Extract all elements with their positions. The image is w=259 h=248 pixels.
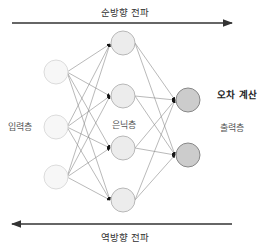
hidden-node bbox=[111, 136, 135, 160]
output-node bbox=[176, 88, 200, 112]
output-layer-label: 출력층 bbox=[220, 121, 244, 134]
hidden-layer-label: 은닉층 bbox=[112, 118, 136, 131]
input-node bbox=[44, 115, 68, 139]
hidden-node bbox=[111, 31, 135, 55]
error-calculation-label: 오차 계산 bbox=[217, 87, 256, 101]
output-node bbox=[176, 143, 200, 167]
input-node bbox=[44, 60, 68, 84]
backward-propagation-label: 역방향 전파 bbox=[101, 230, 149, 244]
input-layer-label: 입력층 bbox=[8, 120, 32, 133]
input-hidden-edges bbox=[67, 44, 110, 200]
output-layer-nodes bbox=[176, 88, 200, 167]
hidden-node bbox=[111, 84, 135, 108]
input-node bbox=[44, 165, 68, 189]
forward-propagation-label: 순방향 전파 bbox=[101, 5, 149, 19]
hidden-node bbox=[111, 188, 135, 212]
hidden-output-edges bbox=[135, 43, 175, 200]
input-layer-nodes bbox=[44, 60, 68, 189]
